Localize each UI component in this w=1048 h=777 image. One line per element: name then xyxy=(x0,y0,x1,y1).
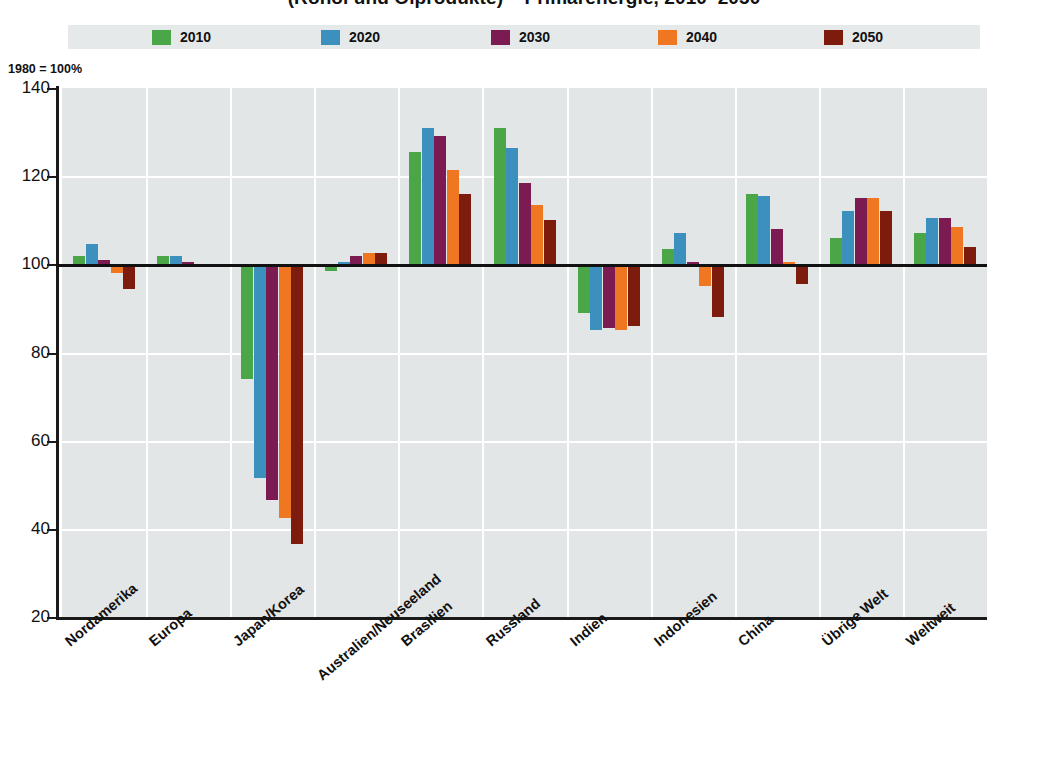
chart-title: (Rohöl und Ölprodukte) – Primärenergie, … xyxy=(0,0,1048,9)
legend-label-2030: 2030 xyxy=(519,30,550,44)
bar-Russland-2050 xyxy=(544,220,556,264)
y-axis-line xyxy=(56,86,59,619)
vertical-gridline xyxy=(314,88,316,617)
bar-Übrige-Welt-2010 xyxy=(830,238,842,264)
bar-Indonesien-2040 xyxy=(699,264,711,286)
bar-Brasilien-2010 xyxy=(409,152,421,264)
bar-Russland-2040 xyxy=(531,205,543,265)
vertical-gridline xyxy=(903,88,905,617)
legend-label-2020: 2020 xyxy=(349,30,380,44)
bar-Brasilien-2030 xyxy=(434,136,446,264)
y-tick-140 xyxy=(47,88,56,90)
reference-line-100 xyxy=(56,264,987,267)
bar-Japan-Korea-2010 xyxy=(241,264,253,379)
bar-Japan-Korea-2040 xyxy=(279,264,291,517)
legend-item-2010[interactable]: 2010 xyxy=(152,25,211,49)
chart-legend: 20102020203020402050 xyxy=(68,25,980,49)
bar-Russland-2030 xyxy=(519,183,531,265)
bar-Brasilien-2040 xyxy=(447,170,459,265)
bar-Indonesien-2020 xyxy=(674,233,686,264)
plot-area xyxy=(62,88,987,617)
vertical-gridline xyxy=(567,88,569,617)
bar-Weltweit-2040 xyxy=(951,227,963,264)
y-tick-label-100: 100 xyxy=(6,255,50,272)
legend-label-2010: 2010 xyxy=(180,30,211,44)
vertical-gridline xyxy=(735,88,737,617)
bar-Übrige-Welt-2020 xyxy=(842,211,854,264)
bar-Weltweit-2010 xyxy=(914,233,926,264)
y-tick-40 xyxy=(47,529,56,531)
y-tick-label-60: 60 xyxy=(6,432,50,449)
legend-swatch-2020 xyxy=(321,30,340,45)
legend-swatch-2040 xyxy=(658,30,677,45)
y-tick-60 xyxy=(47,441,56,443)
y-axis-labels: 14012010080604020 xyxy=(0,0,50,777)
bar-Europa-2020 xyxy=(170,256,182,265)
legend-item-2040[interactable]: 2040 xyxy=(658,25,717,49)
bar-Indonesien-2050 xyxy=(712,264,724,317)
y-tick-80 xyxy=(47,353,56,355)
vertical-gridline xyxy=(651,88,653,617)
y-tick-label-80: 80 xyxy=(6,344,50,361)
gridline-60 xyxy=(62,441,987,443)
bar-Indonesien-2010 xyxy=(662,249,674,264)
bar-Australien-Neuseeland-2050 xyxy=(375,253,387,264)
vertical-gridline xyxy=(398,88,400,617)
gridline-80 xyxy=(62,353,987,355)
bar-Indien-2030 xyxy=(603,264,615,328)
chart-page: (Rohöl und Ölprodukte) – Primärenergie, … xyxy=(0,0,1048,777)
y-tick-20 xyxy=(47,617,56,619)
bar-Weltweit-2020 xyxy=(926,218,938,264)
bar-Japan-Korea-2050 xyxy=(291,264,303,544)
y-tick-100 xyxy=(47,264,56,266)
legend-swatch-2010 xyxy=(152,30,171,45)
vertical-gridline xyxy=(230,88,232,617)
bar-Australien-Neuseeland-2040 xyxy=(363,253,375,264)
bar-China-2020 xyxy=(758,196,770,264)
y-tick-120 xyxy=(47,176,56,178)
y-tick-label-40: 40 xyxy=(6,520,50,537)
bar-Japan-Korea-2020 xyxy=(254,264,266,478)
bar-Brasilien-2020 xyxy=(422,128,434,265)
bar-China-2030 xyxy=(771,229,783,264)
bar-Europa-2010 xyxy=(157,256,169,265)
vertical-gridline xyxy=(146,88,148,617)
bar-Nordamerika-2010 xyxy=(73,256,85,265)
gridline-120 xyxy=(62,176,987,178)
bar-Indien-2020 xyxy=(590,264,602,330)
y-tick-label-140: 140 xyxy=(6,79,50,96)
bar-Weltweit-2030 xyxy=(939,218,951,264)
vertical-gridline xyxy=(482,88,484,617)
bar-Indien-2050 xyxy=(628,264,640,326)
legend-swatch-2050 xyxy=(824,30,843,45)
legend-swatch-2030 xyxy=(491,30,510,45)
bar-Übrige-Welt-2050 xyxy=(880,211,892,264)
bar-Weltweit-2050 xyxy=(964,247,976,265)
legend-item-2030[interactable]: 2030 xyxy=(491,25,550,49)
legend-item-2020[interactable]: 2020 xyxy=(321,25,380,49)
bar-Japan-Korea-2030 xyxy=(266,264,278,500)
y-tick-label-20: 20 xyxy=(6,608,50,625)
y-tick-label-120: 120 xyxy=(6,167,50,184)
bar-China-2010 xyxy=(746,194,758,265)
bar-Russland-2010 xyxy=(494,128,506,265)
bar-Nordamerika-2020 xyxy=(86,244,98,264)
bar-Indien-2010 xyxy=(578,264,590,312)
bar-Brasilien-2050 xyxy=(459,194,471,265)
bar-Übrige-Welt-2040 xyxy=(867,198,879,264)
legend-label-2050: 2050 xyxy=(852,30,883,44)
bar-Australien-Neuseeland-2030 xyxy=(350,256,362,265)
bar-Nordamerika-2050 xyxy=(123,264,135,288)
vertical-gridline xyxy=(819,88,821,617)
bar-Indien-2040 xyxy=(615,264,627,330)
legend-label-2040: 2040 xyxy=(686,30,717,44)
gridline-40 xyxy=(62,529,987,531)
bar-Übrige-Welt-2030 xyxy=(855,198,867,264)
legend-item-2050[interactable]: 2050 xyxy=(824,25,883,49)
bar-Russland-2020 xyxy=(506,148,518,265)
